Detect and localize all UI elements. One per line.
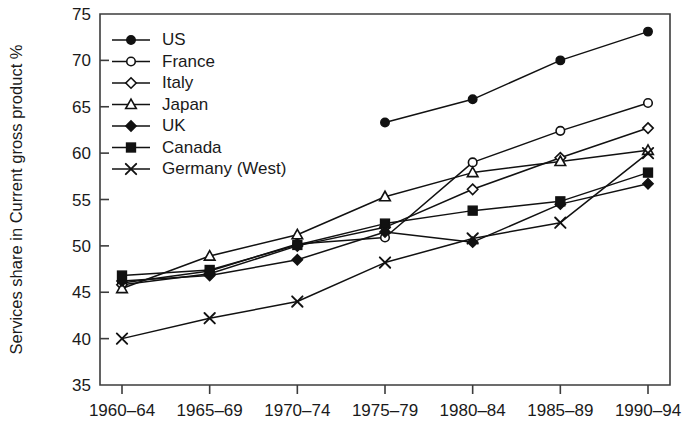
legend-item-france: France bbox=[112, 52, 215, 71]
data-point-marker bbox=[468, 95, 477, 104]
data-point-marker bbox=[205, 266, 214, 275]
y-tick-label: 70 bbox=[72, 51, 91, 70]
legend-label: Canada bbox=[162, 138, 222, 157]
data-point-marker bbox=[644, 27, 653, 36]
data-point-marker bbox=[381, 118, 390, 127]
y-tick-label: 55 bbox=[72, 191, 91, 210]
data-point-marker bbox=[126, 121, 136, 131]
data-point-marker bbox=[468, 206, 477, 215]
series-us bbox=[381, 27, 653, 126]
legend-item-germany-west: Germany (West) bbox=[112, 159, 286, 178]
y-tick-label: 60 bbox=[72, 144, 91, 163]
x-tick-label: 1985–89 bbox=[527, 401, 593, 420]
x-tick-label: 1980–84 bbox=[440, 401, 506, 420]
data-point-marker bbox=[380, 257, 390, 267]
legend-item-italy: Italy bbox=[112, 73, 194, 92]
data-point-marker bbox=[556, 197, 565, 206]
data-point-marker bbox=[644, 99, 653, 108]
x-tick-label: 1970–74 bbox=[264, 401, 330, 420]
legend-label: Germany (West) bbox=[162, 159, 286, 178]
data-point-marker bbox=[126, 78, 136, 88]
data-point-marker bbox=[292, 255, 302, 265]
data-point-marker bbox=[467, 184, 477, 194]
series-polyline bbox=[385, 32, 648, 123]
chart-container: 3540455055606570751960–641965–691970–741… bbox=[0, 0, 686, 441]
axes: 3540455055606570751960–641965–691970–741… bbox=[7, 5, 681, 420]
y-tick-label: 65 bbox=[72, 98, 91, 117]
data-point-marker bbox=[381, 219, 390, 228]
x-tick-label: 1975–79 bbox=[352, 401, 418, 420]
data-point-marker bbox=[127, 57, 136, 66]
y-tick-label: 35 bbox=[72, 376, 91, 395]
chart-legend: USFranceItalyJapanUKCanadaGermany (West) bbox=[112, 30, 286, 178]
data-point-marker bbox=[293, 240, 302, 249]
legend-label: France bbox=[162, 52, 215, 71]
data-point-marker bbox=[292, 229, 303, 239]
legend-item-canada: Canada bbox=[112, 138, 222, 157]
data-point-marker bbox=[468, 158, 477, 167]
legend-label: US bbox=[162, 30, 186, 49]
y-axis-title: Services share in Current gross product … bbox=[7, 44, 25, 354]
line-chart: 3540455055606570751960–641965–691970–741… bbox=[0, 0, 686, 441]
data-point-marker bbox=[118, 271, 127, 280]
y-tick-label: 75 bbox=[72, 5, 91, 24]
legend-item-uk: UK bbox=[112, 116, 186, 135]
legend-label: Japan bbox=[162, 95, 208, 114]
data-point-marker bbox=[644, 168, 653, 177]
legend-item-japan: Japan bbox=[112, 95, 208, 114]
legend-label: UK bbox=[162, 116, 186, 135]
x-tick-label: 1960–64 bbox=[89, 401, 155, 420]
x-tick-label: 1965–69 bbox=[177, 401, 243, 420]
y-tick-label: 50 bbox=[72, 237, 91, 256]
data-point-marker bbox=[643, 123, 653, 133]
y-tick-label: 40 bbox=[72, 330, 91, 349]
legend-label: Italy bbox=[162, 73, 194, 92]
legend-item-us: US bbox=[112, 30, 186, 49]
y-tick-label: 45 bbox=[72, 283, 91, 302]
data-point-marker bbox=[556, 127, 565, 136]
data-point-marker bbox=[643, 179, 653, 189]
data-series bbox=[117, 27, 654, 343]
data-point-marker bbox=[556, 56, 565, 65]
data-point-marker bbox=[127, 143, 136, 152]
data-point-marker bbox=[117, 333, 127, 343]
data-point-marker bbox=[127, 36, 136, 45]
x-tick-label: 1990–94 bbox=[615, 401, 681, 420]
series-polyline bbox=[122, 153, 648, 339]
